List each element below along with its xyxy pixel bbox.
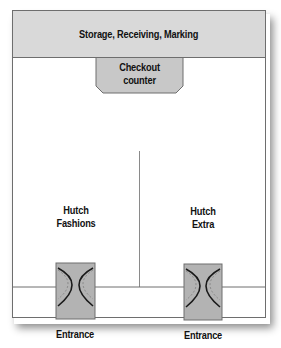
entrance-label-text: Entrance [177, 329, 230, 342]
left-store-label-line2: Fashions [41, 217, 111, 230]
storage-zone: Storage, Receiving, Marking [12, 10, 266, 58]
entrance-label-2: Entrance [173, 329, 233, 342]
storage-label: Storage, Receiving, Marking [79, 28, 198, 41]
double-door-icon [184, 264, 222, 320]
hutch-fashions-label: Hutch Fashions [36, 204, 116, 230]
right-store-label-line1: Hutch [168, 205, 238, 218]
hutch-extra-label: Hutch Extra [163, 205, 243, 231]
checkout-counter-label: Checkout counter [96, 61, 183, 87]
entrance-label-text: Entrance [49, 328, 102, 341]
double-door-icon [56, 263, 95, 319]
checkout-label-line1: Checkout [101, 61, 178, 74]
right-store-label-line2: Extra [168, 218, 238, 231]
entrance-label-1: Entrance [45, 328, 105, 341]
checkout-label-line2: counter [101, 74, 178, 87]
left-store-label-line1: Hutch [41, 204, 111, 217]
